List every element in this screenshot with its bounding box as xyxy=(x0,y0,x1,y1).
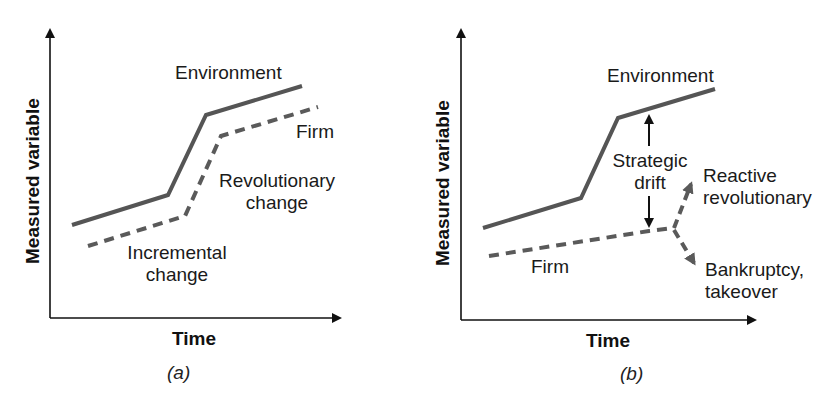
panel-b-tag: (b) xyxy=(620,363,643,385)
panel-a-x-axis-label: Time xyxy=(172,328,216,350)
panel-b-y-axis-label: Measured variable xyxy=(432,100,454,266)
bankruptcy-takeover-label: Bankruptcy, takeover xyxy=(705,259,804,303)
panel-b-firm-line xyxy=(489,228,674,256)
incremental-line-1: Incremental xyxy=(122,242,232,264)
reactive-revolutionary-label: Reactive revolutionary xyxy=(703,165,812,209)
panel-a-firm-label: Firm xyxy=(296,121,334,143)
panel-a-tag: (a) xyxy=(167,362,190,384)
panel-a-y-axis-label: Measured variable xyxy=(22,98,44,264)
strategic-drift-label: Strategic drift xyxy=(604,150,696,194)
strategic-drift-line-2: drift xyxy=(604,172,696,194)
bankruptcy-line-2: takeover xyxy=(705,281,804,303)
revolutionary-line-1: Revolutionary xyxy=(212,170,342,192)
panel-a-revolutionary-label: Revolutionary change xyxy=(212,170,342,214)
panel-b-environment-label: Environment xyxy=(607,65,714,87)
bankruptcy-line-1: Bankruptcy, xyxy=(705,259,804,281)
panel-b-firm-label: Firm xyxy=(531,256,569,278)
revolutionary-line-2: change xyxy=(212,192,342,214)
panel-a-incremental-label: Incremental change xyxy=(122,242,232,286)
panel-a-environment-label: Environment xyxy=(175,62,282,84)
incremental-line-2: change xyxy=(122,264,232,286)
panel-b-x-axis-label: Time xyxy=(586,330,630,352)
strategic-drift-line-1: Strategic xyxy=(604,150,696,172)
reactive-line-2: revolutionary xyxy=(703,187,812,209)
reactive-line-1: Reactive xyxy=(703,165,812,187)
bankruptcy-branch xyxy=(674,230,694,263)
